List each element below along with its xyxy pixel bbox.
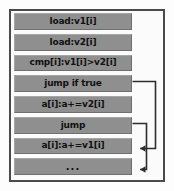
instruction-list: load:v1[i] load:v2[i] cmp[i]:v1[i]>v2[i]… [14, 13, 132, 179]
instruction-label: jump [61, 121, 86, 130]
instruction-row-jump-if-true[interactable]: jump if true [14, 75, 132, 92]
instruction-row-jump[interactable]: jump [14, 117, 132, 134]
instruction-row[interactable]: cmp[i]:v1[i]>v2[i] [14, 55, 132, 72]
instruction-row[interactable]: a[i]:a+=v1[i] [14, 138, 132, 155]
instruction-row[interactable]: load:v2[i] [14, 34, 132, 51]
instruction-label: load:v1[i] [50, 17, 97, 26]
instruction-label: ... [66, 162, 80, 172]
instruction-label: jump if true [44, 79, 101, 88]
diagram-canvas: load:v1[i] load:v2[i] cmp[i]:v1[i]>v2[i]… [0, 0, 174, 191]
instruction-row[interactable]: a[i]:a+=v2[i] [14, 96, 132, 113]
instruction-row[interactable]: load:v1[i] [14, 13, 132, 30]
instruction-label: a[i]:a+=v2[i] [42, 100, 105, 109]
instruction-label: a[i]:a+=v1[i] [42, 141, 105, 150]
instruction-row-ellipsis[interactable]: ... [14, 158, 132, 175]
instruction-label: cmp[i]:v1[i]>v2[i] [30, 58, 117, 67]
instruction-label: load:v2[i] [50, 38, 97, 47]
